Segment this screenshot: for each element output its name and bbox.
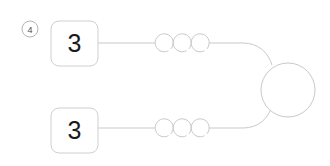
coil-loop-icon [173, 34, 191, 52]
diagram-svg: 4 3 [0, 0, 330, 166]
node-junction [261, 63, 315, 117]
diagram-canvas: 4 3 [0, 0, 330, 166]
coil-loop-icon [155, 119, 173, 137]
coil-loop-icon [155, 34, 173, 52]
edge-bottom [98, 106, 272, 137]
node-top-label: 3 [68, 29, 82, 57]
node-bottom-label: 3 [68, 116, 82, 144]
step-badge-label: 4 [27, 25, 32, 35]
node-top: 3 [51, 21, 98, 66]
coil-loop-icon [173, 119, 191, 137]
step-badge: 4 [22, 21, 38, 37]
node-bottom: 3 [51, 108, 98, 153]
edge-bottom-wire-right [209, 106, 272, 128]
coil-loop-icon [191, 119, 209, 137]
edge-bottom-loops [155, 119, 209, 137]
edge-top-wire-right [209, 43, 272, 65]
edge-top-loops [155, 34, 209, 52]
coil-loop-icon [191, 34, 209, 52]
node-junction-circle [261, 63, 315, 117]
edge-top [98, 34, 272, 65]
